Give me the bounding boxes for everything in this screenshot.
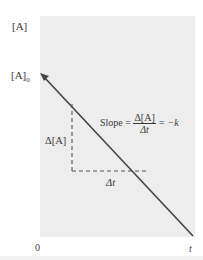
x-origin-label: 0 xyxy=(35,243,40,253)
x-axis-label: t xyxy=(189,244,192,254)
delta-a-label: Δ[A] xyxy=(45,136,66,147)
slope-annotation: Slope = Δ[A] Δt = −k xyxy=(100,112,179,135)
page-bottom-edge xyxy=(0,256,203,260)
concentration-line xyxy=(44,77,193,236)
y-axis-label: [A] xyxy=(12,21,27,32)
y-intercept-label: [A]0 xyxy=(11,70,30,84)
delta-t-label: Δt xyxy=(106,178,115,189)
slope-fraction: Δ[A] Δt xyxy=(133,112,155,135)
